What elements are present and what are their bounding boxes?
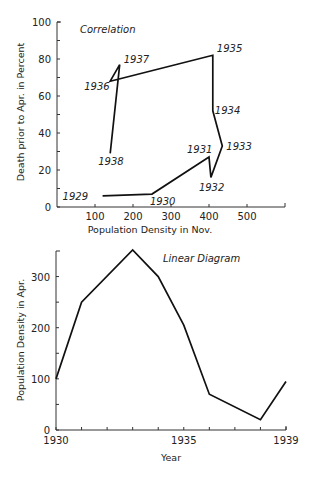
linear-diagram-chart: 0100200300193019351939 Linear Diagram Ye… (15, 250, 299, 463)
point-label-1932: 1932 (199, 182, 224, 193)
x-tick-label: 1935 (171, 435, 196, 446)
point-label-1931: 1931 (187, 144, 212, 155)
x-tick-label: 300 (161, 211, 180, 222)
correlation-chart: 020406080100100200300400500 Correlation … (15, 17, 285, 235)
y-tick-label: 80 (38, 54, 51, 65)
y-tick-label: 100 (32, 17, 51, 28)
linear-diagram-series-line (56, 250, 286, 420)
point-label-1936: 1936 (84, 81, 109, 92)
point-label-1935: 1935 (217, 43, 242, 54)
x-tick-label: 400 (199, 211, 218, 222)
point-label-1934: 1934 (215, 105, 240, 116)
point-label-1938: 1938 (98, 156, 123, 167)
point-label-1937: 1937 (124, 54, 150, 65)
x-tick-label: 200 (123, 211, 142, 222)
point-label-1929: 1929 (63, 191, 88, 202)
y-tick-label: 200 (31, 323, 50, 334)
y-tick-label: 20 (38, 165, 51, 176)
linear-diagram-title: Linear Diagram (163, 253, 240, 264)
correlation-x-axis-label: Population Density in Nov. (88, 224, 213, 235)
correlation-title: Correlation (80, 24, 136, 35)
linear-diagram-axes (56, 251, 286, 430)
correlation-y-axis-label: Death prior to Apr. in Percent (15, 42, 26, 181)
x-tick-label: 500 (237, 211, 256, 222)
correlation-series-line (103, 55, 223, 196)
y-tick-label: 300 (31, 272, 50, 283)
chart-figure: 020406080100100200300400500 Correlation … (0, 0, 312, 477)
x-tick-label: 100 (85, 211, 104, 222)
linear-diagram-y-axis-label: Population Density in Apr. (15, 279, 26, 401)
y-tick-label: 40 (38, 128, 51, 139)
y-tick-label: 100 (31, 374, 50, 385)
point-label-1933: 1933 (226, 141, 251, 152)
linear-diagram-x-axis-label: Year (160, 452, 181, 463)
y-tick-label: 0 (45, 202, 51, 213)
point-label-1930: 1930 (150, 196, 175, 207)
x-tick-label: 1930 (43, 435, 68, 446)
x-tick-label: 1939 (273, 435, 298, 446)
correlation-axes (57, 22, 285, 207)
y-tick-label: 60 (38, 91, 51, 102)
